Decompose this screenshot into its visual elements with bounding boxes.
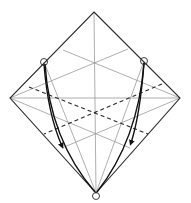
left-edge-crease xyxy=(44,62,96,193)
origami-diagram xyxy=(0,0,191,203)
crease-lines xyxy=(10,12,180,193)
upper-crease-b xyxy=(10,49,128,98)
valley-line-right-to-left xyxy=(44,84,162,134)
right-edge-crease xyxy=(96,61,144,193)
vertical-center-crease xyxy=(94,12,96,193)
right-fold-arrow-outer xyxy=(97,63,144,192)
fold-arrows xyxy=(44,63,144,192)
upper-crease-a xyxy=(63,50,180,98)
